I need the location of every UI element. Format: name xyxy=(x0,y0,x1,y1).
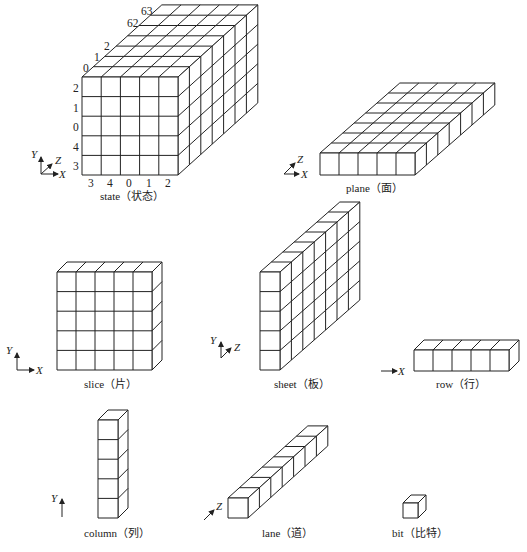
lane-shape xyxy=(228,426,328,518)
state-y-ticks: 2 1 0 4 3 xyxy=(73,82,79,172)
z-axis-label: Z xyxy=(297,153,304,165)
x-axis-label: X xyxy=(300,168,309,180)
x-axis-label: X xyxy=(58,168,67,180)
x-tick: 2 xyxy=(165,177,171,189)
sheet-shape xyxy=(260,202,360,370)
column-shape xyxy=(98,410,128,518)
z-axis-label: Z xyxy=(55,154,62,166)
plane-shape xyxy=(320,83,495,175)
column-axes-icon: Y xyxy=(51,492,62,517)
column-label: column（列） xyxy=(84,526,150,539)
plane-axes-icon: X Z xyxy=(284,153,309,180)
x-tick: 1 xyxy=(146,177,152,189)
x-axis-label: X xyxy=(397,365,406,377)
state-label: state（状态） xyxy=(100,189,164,202)
keccak-state-diagram: 3 4 0 1 2 2 1 0 4 3 0 1 2 62 63 state（状态… xyxy=(0,0,527,552)
x-tick: 4 xyxy=(107,177,113,189)
y-axis-label: Y xyxy=(51,492,59,504)
slice-shape xyxy=(57,262,162,370)
sheet-label: sheet（板） xyxy=(274,377,330,390)
z-tick: 1 xyxy=(94,51,100,63)
y-axis-label: Y xyxy=(210,334,218,346)
z-tick: 62 xyxy=(127,17,139,29)
y-tick: 3 xyxy=(73,160,79,172)
y-tick: 1 xyxy=(73,102,79,114)
state-cube xyxy=(82,5,258,175)
z-axis-label: Z xyxy=(234,341,241,353)
y-axis-label: Y xyxy=(6,344,14,356)
slice-axes-icon: Y X xyxy=(6,344,44,376)
slice-label: slice（片） xyxy=(84,378,137,390)
bit-label: bit（比特） xyxy=(392,526,448,539)
row-label: row（行） xyxy=(436,378,486,390)
plane-label: plane（面） xyxy=(346,182,403,194)
z-tick: 0 xyxy=(83,62,89,74)
lane-axes-icon: Z xyxy=(204,500,223,520)
lane-label: lane（道） xyxy=(262,526,313,539)
sheet-axes-icon: Y Z xyxy=(210,334,241,358)
state-x-ticks: 3 4 0 1 2 xyxy=(88,177,171,189)
x-tick: 3 xyxy=(88,177,94,189)
y-tick: 4 xyxy=(73,141,79,153)
y-tick: 0 xyxy=(73,121,79,133)
y-axis-label: Y xyxy=(31,148,39,160)
row-shape xyxy=(414,340,519,371)
y-tick: 2 xyxy=(73,82,79,94)
x-tick: 0 xyxy=(126,177,132,189)
z-axis-label: Z xyxy=(216,500,223,512)
state-axes-icon: Y X Z xyxy=(31,148,67,180)
z-tick: 2 xyxy=(104,40,110,52)
x-axis-label: X xyxy=(35,364,44,376)
z-tick: 63 xyxy=(141,5,153,17)
bit-shape xyxy=(403,495,426,518)
row-axes-icon: X xyxy=(381,365,406,377)
